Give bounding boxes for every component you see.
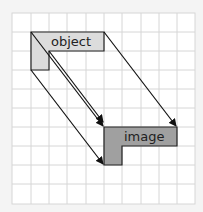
- object-label: object: [51, 34, 91, 49]
- translation-diagram: [0, 0, 203, 212]
- image-label: image: [124, 129, 165, 144]
